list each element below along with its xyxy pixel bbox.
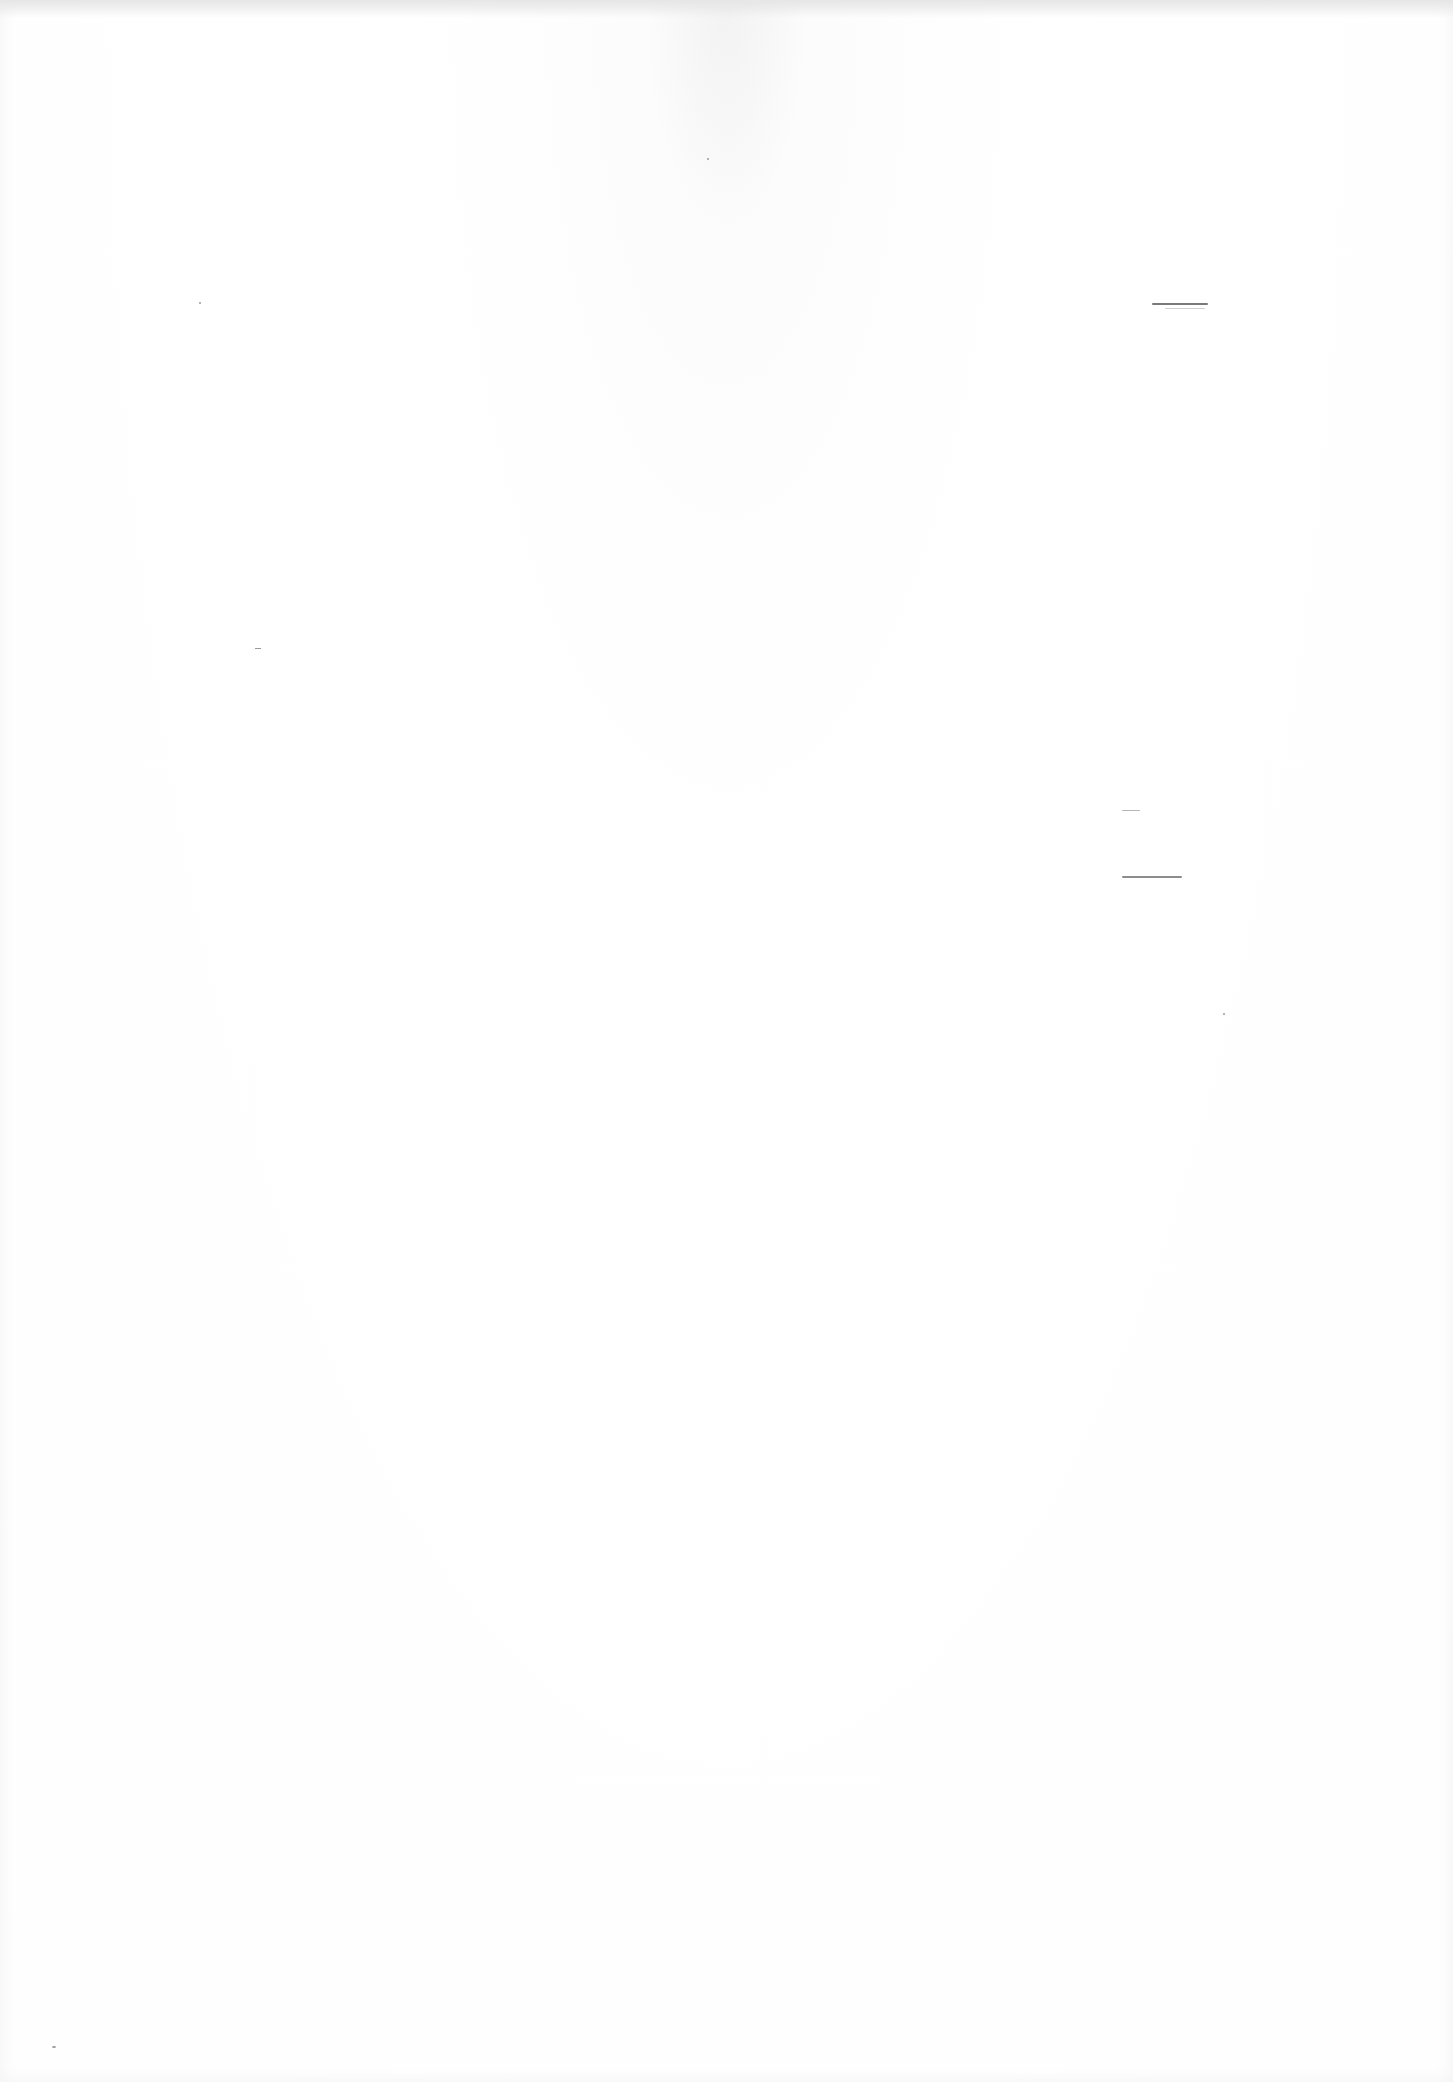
dust-speck bbox=[1223, 1013, 1225, 1015]
pencil-mark bbox=[1152, 303, 1208, 305]
scan-edge-shadow bbox=[0, 0, 1453, 18]
pencil-mark-faint bbox=[1165, 308, 1205, 309]
dust-speck bbox=[707, 158, 709, 160]
blank-page bbox=[0, 0, 1453, 2082]
dust-speck bbox=[255, 648, 261, 649]
pencil-mark bbox=[1122, 876, 1182, 878]
dust-speck bbox=[199, 302, 201, 304]
short-dash-mark bbox=[1122, 810, 1140, 811]
dust-speck bbox=[52, 2046, 56, 2048]
bleed-through-text bbox=[720, 70, 1280, 110]
